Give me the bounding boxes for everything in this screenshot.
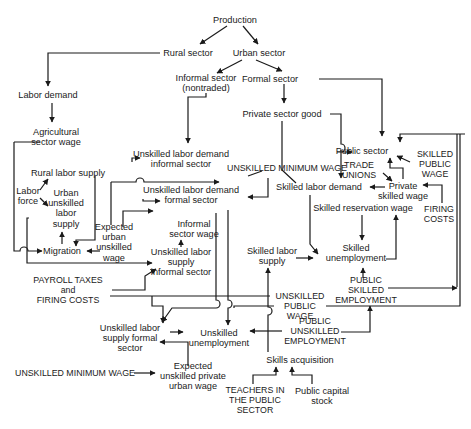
edge-formal-to-public-sector (319, 79, 382, 136)
node-urban-sector: Urban sector (233, 48, 286, 58)
node-rural-sector: Rural sector (163, 48, 213, 58)
node-urban-unskilled-labor-supply: Urban unskilled labor supply (48, 188, 84, 229)
edge-public-wage-to-unskilled-unemp (228, 210, 232, 325)
edge-informal-to-formal-supply (152, 296, 163, 323)
diagram-canvas: ProductionRural sectorUrban sectorInform… (0, 0, 471, 429)
node-unskilled-minimum-wage-bottom: UNSKILLED MINIMUM WAGE (15, 368, 135, 378)
edge-payroll-to-informal (112, 269, 156, 290)
node-unskilled-labor-supply-formal: Unskilled labor supply formal sector (100, 323, 160, 354)
node-payroll-taxes-firing-costs: PAYROLL TAXES and FIRING COSTS (33, 275, 102, 306)
node-skilled-public-wage: SKILLED PUBLIC WAGE (417, 149, 453, 180)
node-labor-force: Labor force (16, 186, 40, 206)
node-unskilled-unemployment: Unskilled unemployment (189, 328, 249, 348)
node-rural-labor-supply: Rural labor supply (31, 168, 105, 178)
node-public-unskilled-employment: PUBLIC UNSKILLED EMPLOYMENT (284, 316, 346, 347)
edge-informal-to-unskilled-demand-informal (188, 93, 206, 143)
node-unskilled-labor-supply-informal: Unskilled labor supply informal sector (151, 247, 211, 278)
edge-production-to-rural (200, 26, 227, 44)
node-expected-unskilled-private-urban-wage: Expected unskilled private urban wage (160, 361, 226, 392)
node-labor-demand: Labor demand (18, 90, 77, 100)
node-skilled-labor-supply: Skilled labor supply (247, 246, 297, 266)
node-unskilled-labor-demand-informal: Unskilled labor demand informal sector (133, 149, 229, 169)
edge-trade-unions-to-private-wage (383, 173, 392, 181)
node-public-skilled-employment: PUBLIC SKILLED EMPLOYMENT (335, 275, 397, 306)
node-unskilled-labor-demand-formal: Unskilled labor demand formal sector (143, 185, 239, 205)
node-skilled-reservation-wage: Skilled reservation wage (313, 203, 413, 213)
edge-private-good-to-skilled-demand (282, 121, 296, 183)
node-trade-unions: TRADE UNIONS (342, 160, 376, 180)
node-public-capital-stock: Public capital stock (295, 386, 349, 406)
node-private-sector-good: Private sector good (242, 109, 321, 119)
node-formal-sector: Formal sector (242, 74, 298, 84)
node-skills-acquisition: Skills acquisition (266, 355, 333, 365)
node-expected-urban-unskilled-wage: Expected urban unskilled wage (95, 222, 133, 263)
edge-skilled-public-wage-to-public-sector (397, 156, 410, 162)
edge-teachers-to-skills (253, 367, 276, 384)
edge-rural-to-labor-demand (48, 53, 160, 86)
node-informal-sector: Informal sector (nontraded) (176, 73, 237, 93)
node-public-sector: Public sector (336, 146, 389, 156)
edge-urban-to-informal (217, 60, 242, 73)
node-migration: Migration (43, 246, 81, 256)
node-private-skilled-wage: Private skilled wage (378, 181, 428, 201)
node-production: Production (213, 15, 257, 25)
node-teachers-public-sector: TEACHERS IN THE PUBLIC SECTOR (225, 385, 284, 416)
edge-skilled-unemp-to-res-wage (386, 215, 396, 259)
edge-labor-force-to-urban (40, 198, 48, 206)
edge-skilled-public-wage-loop (400, 134, 465, 142)
edge-labor-force-to-rural (40, 179, 48, 190)
edge-urban-to-formal (256, 60, 282, 71)
edge-production-to-urban (243, 26, 258, 44)
edge-private-wage-to-public-sector (390, 158, 403, 179)
edge-min-wage-to-demand-formal (248, 178, 268, 197)
node-unskilled-minimum-wage-top: UNSKILLED MINIMUM WAGE (227, 163, 347, 173)
node-firing-costs-right: FIRING COSTS (424, 204, 454, 224)
edge-skills-acq-up (268, 268, 272, 352)
node-skilled-labor-demand: Skilled labor demand (276, 182, 362, 192)
node-informal-sector-wage: Informal sector wage (169, 219, 219, 239)
edge-capital-to-skills (292, 367, 312, 384)
node-skilled-unemployment: Skilled unemployment (326, 243, 386, 263)
node-agricultural-sector-wage: Agricultural sector wage (31, 127, 81, 147)
